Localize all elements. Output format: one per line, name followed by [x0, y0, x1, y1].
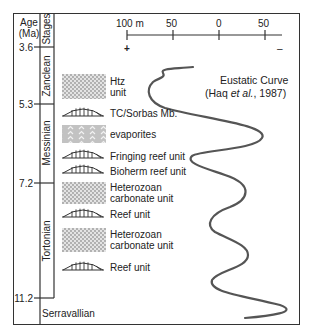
unit-label-line2: carbonate unit — [110, 240, 173, 251]
reef-pattern-icon — [62, 262, 104, 270]
unit-label-line2: carbonate unit — [110, 193, 173, 204]
unit-label-line1: Heterozoan — [110, 229, 173, 240]
unit-label-heterozoan-1: Heterozoan carbonate unit — [110, 182, 173, 204]
reef-pattern-icon — [62, 165, 104, 173]
unit-label-line2: unit — [110, 87, 126, 98]
unit-label-line1: Heterozoan — [110, 182, 173, 193]
unit-label-tc-sorbas: TC/Sorbas Mb. — [110, 108, 177, 119]
unit-label-fringing-reef: Fringing reef unit — [110, 151, 185, 162]
unit-label-reef-2: Reef unit — [110, 262, 150, 273]
reef-pattern-icon — [62, 209, 104, 217]
heterozoan-pattern-icon — [62, 74, 106, 99]
reef-pattern-icon — [62, 150, 104, 158]
unit-label-bioherm-reef: Bioherm reef unit — [110, 166, 186, 177]
evaporite-pattern-icon — [62, 125, 106, 143]
reef-pattern-icon — [62, 108, 104, 116]
unit-label-line1: Htz — [110, 76, 126, 87]
heterozoan-pattern-icon — [62, 182, 106, 204]
heterozoan-pattern-icon — [62, 228, 106, 252]
unit-label-heterozoan-2: Heterozoan carbonate unit — [110, 229, 173, 251]
unit-label-reef-1: Reef unit — [110, 209, 150, 220]
unit-label-htz: Htz unit — [110, 76, 126, 98]
unit-label-evaporites: evaporites — [110, 129, 156, 140]
